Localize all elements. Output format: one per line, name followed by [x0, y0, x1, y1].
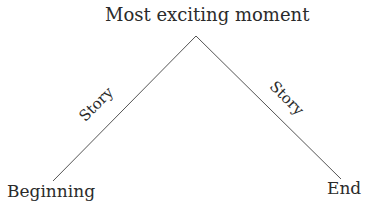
- end-label: End: [327, 180, 361, 197]
- rising-action-line: [53, 36, 196, 181]
- falling-action-line: [196, 36, 341, 179]
- story-arc-diagram: Most exciting moment Story Story Beginni…: [0, 0, 382, 212]
- beginning-label: Beginning: [7, 183, 95, 200]
- climax-label: Most exciting moment: [105, 6, 309, 24]
